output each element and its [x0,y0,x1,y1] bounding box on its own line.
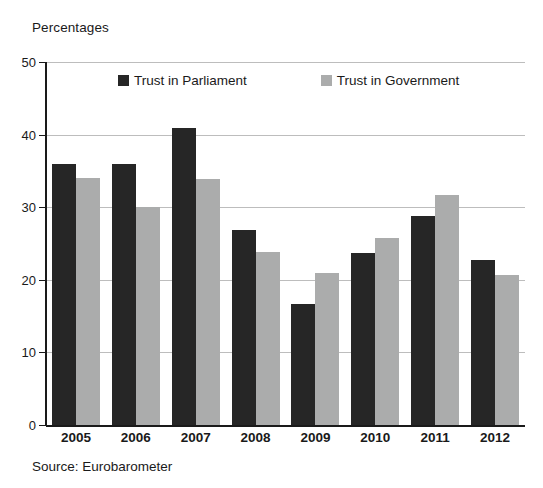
x-axis-tick-label: 2009 [286,430,346,445]
bar [172,128,196,425]
legend-swatch-icon [321,75,332,86]
y-axis-tick-label: 40 [2,127,36,142]
bar-group [46,62,106,425]
x-axis-tick-label: 2005 [46,430,106,445]
bar [435,195,459,425]
x-axis-labels: 20052006200720082009201020112012 [46,430,525,454]
legend-swatch-icon [118,75,129,86]
y-axis-tick-label: 20 [2,272,36,287]
legend-label: Trust in Parliament [134,73,247,88]
bar [291,304,315,425]
bar-chart: Percentages 01020304050 2005200620072008… [0,0,543,488]
y-axis-tick [39,352,46,353]
y-axis-tick [39,135,46,136]
x-axis-baseline [46,425,525,427]
legend-entry: Trust in Government [321,73,460,88]
bar-group [405,62,465,425]
y-axis-tick-label: 30 [2,200,36,215]
legend-label: Trust in Government [337,73,460,88]
bar [52,164,76,425]
x-axis-tick-label: 2010 [345,430,405,445]
bar-group [226,62,286,425]
bar [495,275,519,425]
x-axis-tick-label: 2011 [405,430,465,445]
y-axis-tick-label: 50 [2,55,36,70]
source-note: Source: Eurobarometer [32,459,172,474]
y-axis-tick-label: 0 [2,418,36,433]
bar-group [465,62,525,425]
y-axis-tick [39,207,46,208]
y-axis-tick [39,62,46,63]
bars-layer [46,62,525,425]
bar [136,207,160,425]
bar [411,216,435,425]
x-axis-tick-label: 2012 [465,430,525,445]
y-axis-tick-label: 10 [2,345,36,360]
bar [256,252,280,425]
x-axis-tick-label: 2008 [226,430,286,445]
bar [315,273,339,425]
bar [76,178,100,425]
y-axis-tick [39,425,46,426]
bar [232,230,256,425]
bar [375,238,399,425]
bar [112,164,136,425]
bar-group [345,62,405,425]
bar [471,260,495,425]
y-axis-tick [39,280,46,281]
bar-group [166,62,226,425]
chart-legend: Trust in ParliamentTrust in Government [118,73,459,88]
bar-group [286,62,346,425]
bar [351,253,375,425]
legend-entry: Trust in Parliament [118,73,247,88]
x-axis-tick-label: 2006 [106,430,166,445]
bar [196,179,220,425]
x-axis-tick-label: 2007 [166,430,226,445]
bar-group [106,62,166,425]
y-axis-title: Percentages [32,20,109,35]
